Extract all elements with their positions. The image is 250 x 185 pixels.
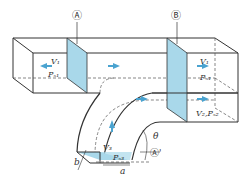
duct-diagram: Ⓐ Ⓑ V₁ Pₛ₁ V₁ Pₛ₁ V₂,Pₛ₂ V₃ Pₛ₃ Ⓐ' θ a b [0, 0, 250, 185]
ps1-left-label: Pₛ₁ [47, 70, 59, 79]
dimension-lines [78, 130, 147, 170]
arrow-elbow-down [109, 120, 115, 132]
ps1-right-label: Pₛ₁ [199, 73, 211, 82]
dim-a-label: a [120, 166, 125, 176]
v3-label: V₃ [103, 143, 112, 152]
section-b-plane [167, 38, 187, 122]
theta-label: θ [153, 131, 159, 141]
section-b-label: Ⓑ [171, 10, 181, 21]
arrow-right-bottom [197, 96, 209, 102]
arrow-mid [108, 63, 120, 69]
v2-ps2-label: V₂,Pₛ₂ [196, 109, 219, 118]
section-a-plane [67, 38, 87, 93]
section-a-prime-label: Ⓐ' [150, 148, 161, 158]
dim-b-label: b [74, 157, 80, 167]
ps3-label: Pₛ₃ [112, 153, 124, 162]
section-a-label: Ⓐ [72, 10, 82, 21]
v1-left-label: V₁ [51, 57, 60, 66]
v1-right-label: V₁ [200, 57, 209, 66]
